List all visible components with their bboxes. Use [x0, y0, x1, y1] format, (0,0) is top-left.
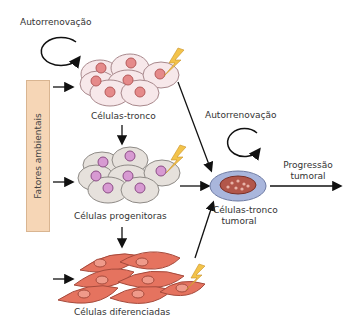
progenitor-cells-label: Células progenitoras	[74, 211, 167, 222]
self-renewal-cycle-icon-right	[228, 129, 259, 157]
self-renewal-cycle-icon-top	[41, 37, 79, 65]
differentiated-cells-label: Células diferenciadas	[74, 307, 170, 318]
tumor-stem-cell	[210, 171, 266, 201]
self-renewal-label-right: Autorrenovação	[205, 110, 277, 121]
self-renewal-label-top: Autorrenovação	[20, 17, 92, 28]
stem-cells-cluster	[80, 54, 179, 106]
stem-cells-label: Células-tronco	[91, 111, 156, 122]
progenitor-cells-cluster	[78, 147, 180, 203]
differentiated-cells-cluster	[58, 252, 205, 304]
tumor-progression-label: Progressão tumoral	[282, 160, 334, 182]
tumor-stem-cells-label: Células-tronco tumoral	[213, 205, 265, 227]
